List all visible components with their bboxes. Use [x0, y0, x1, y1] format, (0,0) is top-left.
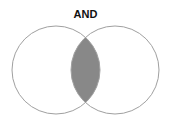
venn-diagram — [0, 0, 171, 120]
